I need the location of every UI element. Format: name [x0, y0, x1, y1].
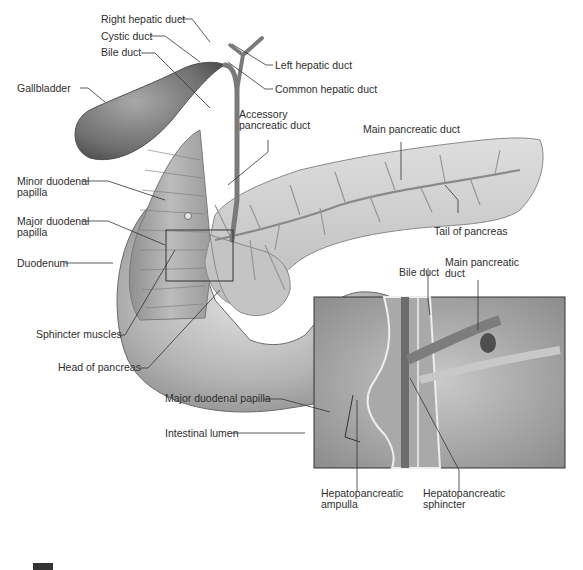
label-gallbladder: Gallbladder: [17, 82, 71, 95]
label-left-hepatic-duct: Left hepatic duct: [275, 59, 352, 72]
inset-label-intestinal-lumen: Intestinal lumen: [165, 427, 239, 440]
label-tail-of-pancreas: Tail of pancreas: [434, 225, 508, 238]
inset-label-bile-duct: Bile duct: [399, 266, 439, 279]
apr-logo-fragment: [0, 563, 60, 570]
label-minor-duodenal-papilla-line2: papilla: [17, 186, 47, 199]
label-right-hepatic-duct: Right hepatic duct: [101, 13, 185, 26]
label-sphincter-muscles: Sphincter muscles: [36, 328, 122, 341]
label-bile-duct: Bile duct: [101, 46, 141, 59]
gallbladder-shape: [75, 62, 225, 159]
inset-label-hepatopancreatic-ampulla-line2: ampulla: [321, 498, 358, 511]
inset-label-major-duodenal-papilla: Major duodenal papilla: [165, 392, 271, 405]
inset-detail: [314, 297, 565, 468]
inset-label-hepatopancreatic-sphincter-line2: sphincter: [423, 498, 466, 511]
label-main-pancreatic-duct: Main pancreatic duct: [363, 123, 460, 136]
minor-papilla-shape: [185, 213, 192, 220]
inset-label-main-pancreatic-duct-line2: duct: [445, 267, 465, 280]
label-accessory-pancreatic-duct-line2: pancreatic duct: [239, 119, 310, 132]
label-common-hepatic-duct: Common hepatic duct: [275, 83, 377, 96]
label-duodenum: Duodenum: [17, 257, 68, 270]
label-major-duodenal-papilla-line2: papilla: [17, 226, 47, 239]
label-cystic-duct: Cystic duct: [101, 30, 152, 43]
label-head-of-pancreas: Head of pancreas: [58, 361, 141, 374]
